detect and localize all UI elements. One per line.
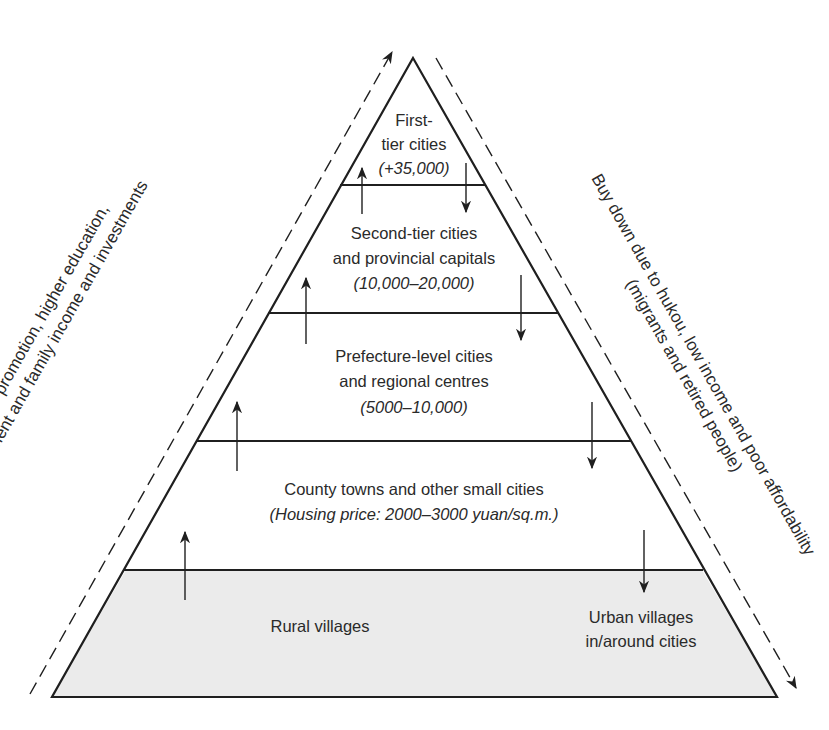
tier-label: and regional centres: [339, 372, 489, 390]
buy-down-line-2: (migrants and retired people): [622, 276, 746, 475]
tier-price: (+35,000): [378, 159, 449, 177]
buy-down-line-1: Buy down due to hukou, low income and po…: [587, 171, 819, 559]
buy-up-annotation: Buy up due to office promotion, higher e…: [0, 166, 152, 577]
tier-prefecture: Prefecture-level cities and regional cen…: [335, 347, 493, 416]
urban-villages-label: in/around cities: [586, 632, 697, 650]
tier-label: First-: [395, 111, 433, 129]
tier-label: Prefecture-level cities: [335, 347, 493, 365]
tier-rural: Rural villages: [270, 617, 369, 635]
tier-label: County towns and other small cities: [284, 480, 544, 498]
tier-label: Rural villages: [270, 617, 369, 635]
tier-second: Second-tier cities and provincial capita…: [333, 224, 495, 292]
tier-label: tier cities: [381, 135, 446, 153]
up-arrows: [185, 168, 362, 600]
urban-villages-label: Urban villages: [589, 608, 694, 626]
tier-price: (10,000–20,000): [353, 274, 474, 292]
housing-pyramid-diagram: First- tier cities (+35,000) Second-tier…: [0, 0, 829, 730]
tier-county: County towns and other small cities (Hou…: [270, 480, 559, 523]
tier-label: Second-tier cities: [351, 224, 478, 242]
tier-first: First- tier cities (+35,000): [378, 111, 449, 177]
tier-price: (5000–10,000): [360, 398, 467, 416]
tier-price: (Housing price: 2000–3000 yuan/sq.m.): [270, 505, 559, 523]
tier-label: and provincial capitals: [333, 249, 495, 267]
